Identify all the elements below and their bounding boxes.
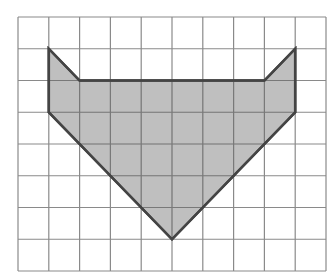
grid-diagram bbox=[0, 0, 330, 278]
